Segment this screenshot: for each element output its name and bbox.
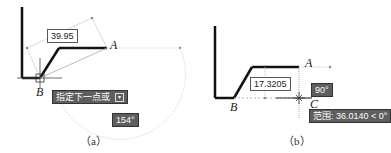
dimension-input[interactable]: 17.3205: [250, 77, 291, 91]
panel-a-geometry: [17, 7, 185, 139]
dropdown-arrow-icon[interactable]: ▾: [115, 93, 124, 102]
cad-drawing-canvas: [0, 0, 391, 153]
point-a-label: A: [305, 56, 312, 71]
point-b-label: B: [36, 85, 43, 100]
angle-tooltip: 154°: [112, 113, 139, 127]
point-a-label: A: [110, 38, 117, 53]
range-tooltip: 范围: 36.0140 < 0°: [309, 109, 391, 123]
caption-a: （a）: [80, 132, 107, 148]
prompt-text: 指定下一点或: [56, 92, 110, 102]
point-b-label: B: [230, 100, 237, 115]
caption-b: （b）: [283, 132, 311, 148]
angle-tooltip: 90°: [311, 83, 333, 97]
dimension-input[interactable]: 39.95: [47, 29, 78, 43]
command-prompt-tooltip[interactable]: 指定下一点或▾: [52, 90, 128, 104]
